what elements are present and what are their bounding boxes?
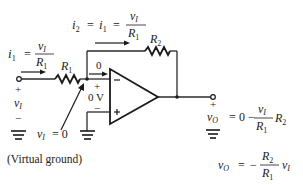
label-virtual-vI: vI [37,127,45,142]
label-equals: = [113,18,120,32]
label-input-plus: + [15,83,21,95]
label-i1: i1 [8,46,16,63]
label-r1: R1 [60,59,72,75]
ground-icon [80,131,95,139]
resistor-r2 [145,47,170,55]
output-node-dot [175,95,179,99]
resistor-r1 [55,75,80,83]
label-vI-num2: vI [130,9,138,24]
arrow-i1-icon [21,70,46,75]
label-vo-eq1-den: R1 [255,119,267,135]
label-vo-eq2-den: R1 [261,166,273,182]
label-vI-num: vI [38,39,46,54]
label-R1-den2: R1 [127,26,139,42]
input-terminal [17,77,22,82]
label-input-minus: − [15,112,21,124]
label-vo-eq1-zero: 0 − [239,110,255,124]
label-equals: = [238,158,245,172]
arrow-virtual-ground-icon [61,83,84,130]
label-vo-eq2-vI: vI [282,158,290,173]
label-input-vI: vI [14,96,22,111]
label-i1-mid: i1 [99,17,107,34]
circuit-diagram: i1 = vI R1 R1 i2 = i1 = vI R1 R2 0 + 0 V… [0,0,303,185]
arrow-i2-icon [95,41,130,46]
label-virtual-ground: (Virtual ground) [7,153,82,166]
ground-icon [11,131,26,139]
arrow-zero-current-icon [89,72,108,77]
label-output-plus: + [210,98,216,110]
label-vo-eq1-r2: R2 [274,111,286,127]
label-equals: = [87,18,94,32]
label-output-vO: vO [207,110,218,125]
label-R1-den: R1 [35,55,47,71]
label-r2: R2 [149,32,161,48]
label-vo-eq2-num: R2 [261,149,273,165]
opamp-triangle [110,69,158,124]
label-virtual-eq: = 0 [52,127,68,141]
label-equals: = [229,110,236,124]
label-minus-node: − [94,102,100,114]
label-vo-eq2-lhs: vO [218,158,229,173]
label-i2: i2 [72,17,80,34]
label-zero-current: 0 [96,59,102,71]
label-vo-eq1-num: vI [258,102,266,117]
label-equals: = [24,47,31,61]
label-vo-eq2-minus: − [250,158,257,172]
ground-icon [206,130,220,138]
